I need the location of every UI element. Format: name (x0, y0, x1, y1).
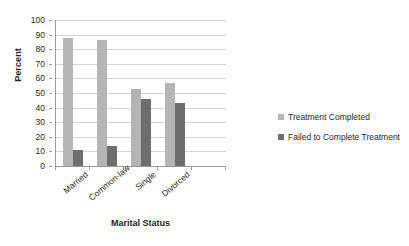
bars-layer (56, 20, 226, 166)
y-axis-tick-label: 20 (36, 133, 45, 142)
y-axis-tick-mark (49, 166, 52, 167)
bar-single-series-1 (141, 99, 151, 166)
y-axis-tick-label: 50 (36, 89, 45, 98)
legend-item-label: Failed to Complete Treatment (288, 132, 400, 143)
bar-divorced-series-0 (165, 83, 175, 166)
legend: Treatment CompletedFailed to Complete Tr… (278, 112, 406, 151)
x-axis-category-label: Divorced (155, 170, 191, 202)
y-axis-tick-label: 40 (36, 104, 45, 113)
bar-common-law-series-0 (97, 40, 107, 166)
y-axis-tick-label: 10 (36, 147, 45, 156)
x-axis-title: Marital Status (55, 218, 226, 228)
y-axis-tick-mark (49, 93, 52, 94)
y-axis-tick-mark (49, 78, 52, 79)
x-axis-category-label: Common-law (87, 170, 123, 202)
x-axis-category-labels: MarriedCommon-lawSingleDivorced (55, 170, 235, 208)
y-axis-tick-mark (49, 137, 52, 138)
y-axis-tick-label: 70 (36, 60, 45, 69)
bar-chart: Percent 1009080706050403020100 MarriedCo… (0, 0, 409, 246)
bar-divorced-series-1 (175, 103, 185, 166)
bar-single-series-0 (131, 89, 141, 166)
legend-item[interactable]: Treatment Completed (278, 112, 406, 123)
legend-item-label: Treatment Completed (288, 112, 370, 123)
x-axis-category-label: Married (53, 170, 89, 202)
y-axis-tick-mark (49, 151, 52, 152)
y-axis-tick-label: 30 (36, 118, 45, 127)
legend-swatch-icon (278, 134, 284, 140)
y-axis-tick-mark (49, 108, 52, 109)
x-axis-category-label: Single (121, 170, 157, 202)
y-axis-tick-label: 0 (40, 162, 45, 171)
bar-married-series-1 (73, 150, 83, 166)
y-axis-tick-label: 100 (31, 16, 45, 25)
y-axis-tick-label: 80 (36, 45, 45, 54)
y-axis-tick-mark (49, 35, 52, 36)
plot-area (55, 20, 226, 167)
legend-swatch-icon (278, 114, 284, 120)
y-axis-tick-labels: 1009080706050403020100 (0, 20, 52, 166)
y-axis-tick-label: 60 (36, 74, 45, 83)
y-axis-tick-mark (49, 20, 52, 21)
y-axis-tick-mark (49, 49, 52, 50)
y-axis-tick-label: 90 (36, 31, 45, 40)
bar-married-series-0 (63, 38, 73, 166)
y-axis-tick-mark (49, 122, 52, 123)
y-axis-tick-mark (49, 64, 52, 65)
legend-item[interactable]: Failed to Complete Treatment (278, 132, 406, 143)
bar-common-law-series-1 (107, 146, 117, 166)
